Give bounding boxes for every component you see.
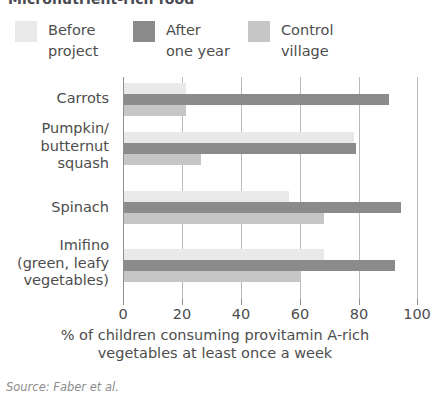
source-note: Source: Faber et al.: [6, 380, 119, 394]
x-tick-label-80: 80: [339, 306, 379, 322]
bar-spinach-control: [124, 213, 324, 224]
category-label-imifino: Imifino (green, leafy vegetables): [0, 237, 109, 290]
legend-label-after-one-year: After one year: [166, 20, 230, 62]
category-axis-labels: Carrots Pumpkin/ butternut squash Spinac…: [0, 77, 117, 299]
x-tick-20: [182, 299, 183, 305]
bar-carrots-before: [124, 83, 186, 94]
x-tick-100: [417, 299, 418, 305]
legend-swatch-control-village: [248, 21, 270, 42]
category-label-spinach: Spinach: [0, 199, 109, 217]
legend-swatch-before-project: [15, 21, 37, 42]
bar-spinach-before: [124, 191, 289, 202]
bar-pumpkin-after: [124, 143, 356, 154]
bar-carrots-control: [124, 105, 186, 116]
page-title: Micronutrient-rich food: [8, 0, 194, 7]
bar-group-carrots: [124, 83, 418, 116]
x-axis: 0 20 40 60 80 100: [123, 299, 418, 323]
x-tick-label-20: 20: [162, 306, 202, 322]
bar-carrots-after: [124, 94, 389, 105]
x-tick-80: [359, 299, 360, 305]
x-tick-label-60: 60: [280, 306, 320, 322]
legend-label-control-village: Control village: [281, 20, 333, 62]
legend-swatch-after-one-year: [133, 21, 155, 42]
bar-imifino-after: [124, 260, 395, 271]
bar-imifino-before: [124, 249, 324, 260]
bar-pumpkin-before: [124, 132, 354, 143]
x-tick-label-0: 0: [103, 306, 143, 322]
plot-area: [123, 77, 418, 299]
legend-label-before-project: Before project: [48, 20, 98, 62]
bar-group-pumpkin: [124, 132, 418, 165]
bar-group-imifino: [124, 249, 418, 282]
x-tick-label-40: 40: [221, 306, 261, 322]
x-tick-0: [123, 299, 124, 305]
chart-legend: Before project After one year Control vi…: [15, 20, 415, 68]
x-tick-label-100: 100: [397, 306, 435, 322]
legend-item-after-one-year: After one year: [133, 20, 248, 62]
bar-imifino-control: [124, 271, 301, 282]
bar-pumpkin-control: [124, 154, 201, 165]
legend-item-before-project: Before project: [15, 20, 133, 62]
x-tick-40: [241, 299, 242, 305]
bar-group-spinach: [124, 191, 418, 224]
x-tick-60: [300, 299, 301, 305]
category-label-carrots: Carrots: [0, 90, 109, 108]
category-label-pumpkin: Pumpkin/ butternut squash: [0, 120, 109, 173]
legend-item-control-village: Control village: [248, 20, 368, 62]
bar-spinach-after: [124, 202, 401, 213]
x-axis-title: % of children consuming provitamin A-ric…: [20, 327, 410, 362]
